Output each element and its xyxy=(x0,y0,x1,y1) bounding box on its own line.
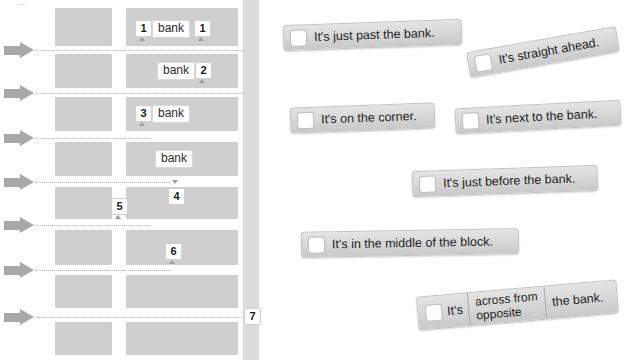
city-block xyxy=(55,97,112,131)
arrow-head xyxy=(20,174,34,190)
street-line xyxy=(36,317,250,318)
direction-arrow xyxy=(4,85,34,102)
map-number-5: 5 xyxy=(111,198,128,215)
arrow-shaft xyxy=(4,313,21,322)
answer-card-just-before-bank[interactable]: It's just before the bank. xyxy=(412,165,599,197)
bank-label: bank xyxy=(152,20,190,38)
direction-arrow xyxy=(4,130,34,147)
arrow-shaft xyxy=(4,221,21,230)
arrow-shaft xyxy=(4,134,21,143)
worksheet-canvas: — xyxy=(0,0,629,360)
direction-arrow xyxy=(4,174,34,191)
arrow-head xyxy=(20,130,34,146)
street-line xyxy=(36,93,245,94)
answer-card-on-the-corner[interactable]: It's on the corner. xyxy=(290,102,436,133)
compound-suffix: the bank. xyxy=(552,291,604,309)
arrow-head xyxy=(20,309,34,325)
arrow-head xyxy=(20,217,34,233)
checkbox-icon[interactable] xyxy=(419,175,437,193)
answer-card-across-from-opposite[interactable]: It's across from opposite the bank. xyxy=(416,279,619,330)
checkbox-icon[interactable] xyxy=(462,112,480,130)
map-number-1b: 1 xyxy=(194,20,211,37)
street-line xyxy=(36,50,245,51)
street-map: — xyxy=(0,0,262,360)
arrow-shaft xyxy=(4,266,21,275)
answer-card-just-past[interactable]: It's just past the bank. xyxy=(283,19,463,51)
number-tick xyxy=(115,215,121,219)
compound-option-bottom: opposite xyxy=(476,305,522,323)
answer-card-label: It's just before the bank. xyxy=(443,172,576,191)
map-number-6: 6 xyxy=(165,243,182,260)
answer-card-label: It's on the corner. xyxy=(321,109,417,126)
street-line xyxy=(36,225,151,226)
arrow-head xyxy=(20,42,34,58)
map-number-2: 2 xyxy=(195,62,212,79)
compound-prefix: It's xyxy=(447,303,464,318)
street-line xyxy=(36,270,171,271)
direction-arrow xyxy=(4,217,34,234)
street-line xyxy=(36,138,151,139)
direction-arrow xyxy=(4,262,34,279)
number-tick xyxy=(198,37,204,41)
checkbox-icon[interactable] xyxy=(290,29,308,47)
arrow-shaft xyxy=(4,89,21,98)
city-block xyxy=(126,275,238,308)
number-tick xyxy=(169,260,175,264)
answer-card-label: It's straight ahead. xyxy=(497,35,600,66)
number-tick xyxy=(139,122,145,126)
number-tick xyxy=(172,180,178,184)
compound-suffix-cell: the bank. xyxy=(545,281,611,318)
city-block xyxy=(55,322,112,355)
answer-card-label: It's just past the bank. xyxy=(314,26,435,44)
checkbox-icon[interactable] xyxy=(308,236,325,253)
bank-label: bank xyxy=(152,105,190,123)
answer-card-next-to-bank[interactable]: It's next to the bank. xyxy=(454,100,621,135)
street-line xyxy=(36,182,171,183)
direction-arrow xyxy=(4,309,34,326)
map-number-7: 7 xyxy=(244,308,261,325)
city-block xyxy=(126,322,238,355)
crop-mark: — xyxy=(18,0,24,7)
bank-label: bank xyxy=(157,62,195,80)
city-block xyxy=(55,187,112,219)
checkbox-icon[interactable] xyxy=(297,111,315,129)
number-tick xyxy=(139,37,145,41)
checkbox-icon[interactable] xyxy=(474,53,494,73)
direction-arrow xyxy=(4,42,34,59)
city-block xyxy=(55,8,112,46)
checkbox-icon[interactable] xyxy=(425,303,443,321)
arrow-shaft xyxy=(4,46,21,55)
answer-card-label: It's in the middle of the block. xyxy=(332,235,493,252)
city-block xyxy=(55,275,112,308)
city-block xyxy=(55,230,112,265)
answer-card-straight-ahead[interactable]: It's straight ahead. xyxy=(466,26,620,78)
city-block xyxy=(55,142,112,176)
arrow-head xyxy=(20,85,34,101)
answer-card-label: It's next to the bank. xyxy=(486,107,598,127)
city-block xyxy=(126,230,238,265)
arrow-head xyxy=(20,262,34,278)
compound-checkbox-cell[interactable]: It's xyxy=(417,293,469,329)
map-number-4: 4 xyxy=(168,188,185,205)
number-tick xyxy=(199,79,205,83)
vertical-street xyxy=(243,0,259,360)
compound-options-cell[interactable]: across from opposite xyxy=(467,287,546,326)
answer-card-middle-of-block[interactable]: It's in the middle of the block. xyxy=(301,228,519,258)
map-number-3: 3 xyxy=(135,105,152,122)
arrow-shaft xyxy=(4,178,21,187)
bank-label: bank xyxy=(155,150,193,168)
map-number-1a: 1 xyxy=(135,20,152,37)
city-block xyxy=(55,54,112,88)
